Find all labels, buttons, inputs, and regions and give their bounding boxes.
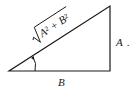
- triangle-diagram: A² + B² A . B: [0, 0, 135, 94]
- hypotenuse-label: A² + B²: [36, 11, 72, 40]
- side-b-label: B: [58, 76, 65, 88]
- side-a-period: .: [127, 36, 130, 48]
- side-a-label: A: [115, 36, 123, 48]
- hypotenuse-label-group: A² + B²: [28, 7, 75, 45]
